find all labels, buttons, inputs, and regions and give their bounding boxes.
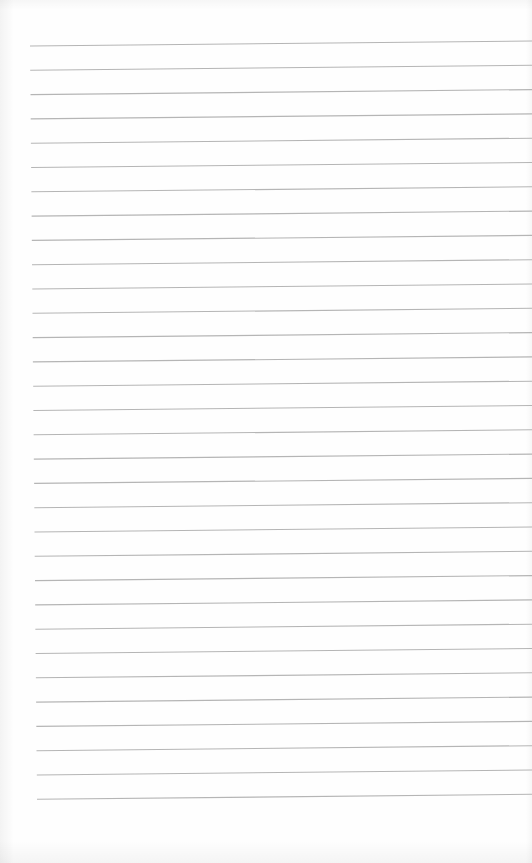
ruled-line bbox=[30, 41, 532, 46]
ruled-line bbox=[35, 551, 532, 556]
ruled-line bbox=[33, 308, 532, 313]
ruled-line bbox=[36, 673, 532, 678]
ruled-line bbox=[35, 527, 532, 532]
ruled-line bbox=[30, 65, 532, 70]
ruled-line bbox=[33, 333, 532, 338]
ruled-line bbox=[32, 260, 532, 265]
ruled-line bbox=[35, 600, 532, 605]
ruled-line bbox=[37, 794, 532, 799]
lined-paper-sheet bbox=[0, 0, 532, 863]
ruled-line bbox=[35, 576, 532, 581]
ruled-line bbox=[31, 187, 532, 192]
ruled-line bbox=[32, 211, 532, 216]
ruled-line bbox=[36, 697, 532, 702]
ruled-line bbox=[36, 721, 532, 726]
ruled-line bbox=[34, 478, 532, 483]
ruled-line bbox=[32, 284, 532, 289]
ruled-lines bbox=[0, 0, 532, 863]
ruled-line bbox=[33, 406, 532, 411]
ruled-line bbox=[34, 454, 532, 459]
ruled-line bbox=[33, 357, 532, 362]
ruled-line bbox=[37, 746, 532, 751]
ruled-line bbox=[33, 381, 532, 386]
ruled-line bbox=[34, 430, 532, 435]
ruled-line bbox=[31, 138, 532, 143]
ruled-line bbox=[35, 624, 532, 629]
ruled-line bbox=[37, 770, 532, 775]
ruled-line bbox=[31, 90, 532, 95]
ruled-line bbox=[31, 163, 532, 168]
ruled-line bbox=[34, 503, 532, 508]
ruled-line bbox=[31, 114, 532, 119]
ruled-line bbox=[36, 649, 532, 654]
ruled-line bbox=[32, 235, 532, 240]
